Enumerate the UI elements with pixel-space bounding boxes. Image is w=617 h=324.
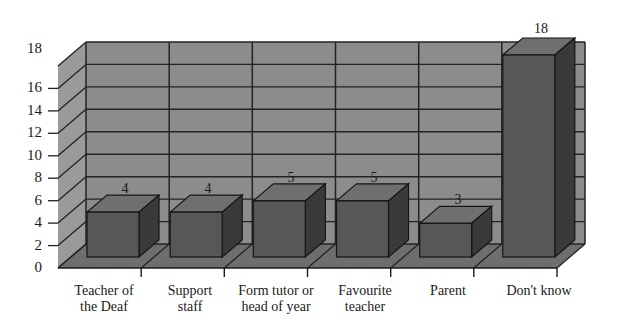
x-category-label: Parent bbox=[410, 283, 486, 299]
y-tick-label: 8 bbox=[8, 170, 42, 185]
bar-value-label: 4 bbox=[182, 182, 234, 196]
x-category-line: Don't know bbox=[487, 283, 591, 299]
x-category-line: Parent bbox=[410, 283, 486, 299]
bar-column bbox=[337, 184, 409, 257]
y-tick-label: 0 bbox=[8, 260, 42, 275]
x-category-line: the Deaf bbox=[56, 299, 152, 315]
x-category-label: Form tutor or head of year bbox=[224, 283, 328, 314]
y-tick-label: 2 bbox=[8, 238, 42, 253]
y-tick-label: 10 bbox=[8, 148, 42, 163]
bar-value-label: 18 bbox=[515, 22, 567, 36]
bar-value-label: 4 bbox=[99, 182, 151, 196]
x-category-label: Favourite teacher bbox=[318, 283, 412, 314]
chart-canvas bbox=[0, 0, 617, 324]
x-category-line: Support bbox=[145, 283, 235, 299]
bar-column bbox=[503, 38, 575, 257]
bar-column bbox=[170, 195, 242, 257]
x-category-line: head of year bbox=[224, 299, 328, 315]
x-category-label: Support staff bbox=[145, 283, 235, 314]
y-tick-label: 16 bbox=[8, 80, 42, 95]
x-category-line: Favourite bbox=[318, 283, 412, 299]
y-tick-label: 18 bbox=[8, 41, 42, 56]
x-category-label: Teacher of the Deaf bbox=[56, 283, 152, 314]
y-tick-label: 6 bbox=[8, 193, 42, 208]
x-category-line: teacher bbox=[318, 299, 412, 315]
bar-column bbox=[87, 195, 159, 257]
y-tick-label: 14 bbox=[8, 103, 42, 118]
bar-column bbox=[420, 206, 492, 257]
y-tick-label: 4 bbox=[8, 215, 42, 230]
x-category-line: Teacher of bbox=[56, 283, 152, 299]
bar-chart: 0 2 4 6 8 10 12 14 16 18 4 4 5 5 3 18 Te… bbox=[0, 0, 617, 324]
bar-value-label: 5 bbox=[265, 171, 317, 185]
bar-value-label: 5 bbox=[348, 171, 400, 185]
x-axis-ticks bbox=[141, 268, 557, 277]
y-tick-label: 12 bbox=[8, 125, 42, 140]
x-category-label: Don't know bbox=[487, 283, 591, 299]
y-axis-ticks bbox=[48, 88, 58, 245]
bar-value-label: 3 bbox=[432, 193, 484, 207]
x-category-line: Form tutor or bbox=[224, 283, 328, 299]
x-category-line: staff bbox=[145, 299, 235, 315]
bar-column bbox=[253, 184, 325, 257]
